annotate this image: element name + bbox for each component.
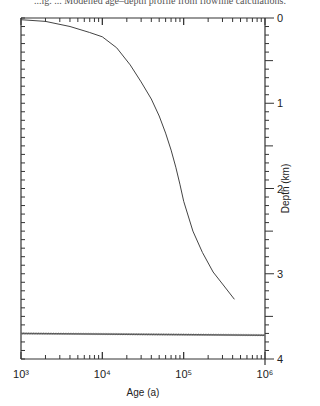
x-tick-label: 10³ <box>13 368 29 380</box>
age-depth-curve <box>21 20 234 300</box>
x-axis-label: Age (a) <box>127 387 160 398</box>
y-tick-label: 3 <box>277 268 283 280</box>
x-tick-label: 10⁶ <box>257 368 274 380</box>
y-tick-label: 4 <box>277 353 283 365</box>
y-tick-label: 0 <box>277 12 283 24</box>
age-depth-chart: 10³10⁴10⁵10⁶Age (a)01234Depth (km) <box>0 0 320 406</box>
y-axis-label: Depth (km) <box>280 164 291 213</box>
x-tick-label: 10⁵ <box>175 368 192 380</box>
y-tick-label: 1 <box>277 97 283 109</box>
base-band <box>21 333 265 335</box>
x-tick-label: 10⁴ <box>94 368 111 380</box>
